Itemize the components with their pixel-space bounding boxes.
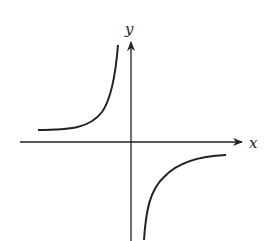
lower-right-branch (144, 155, 226, 240)
hyperbola-graph: y x (0, 0, 273, 241)
y-axis-label: y (124, 20, 134, 38)
upper-left-branch (38, 45, 118, 130)
x-axis-label: x (249, 134, 258, 152)
